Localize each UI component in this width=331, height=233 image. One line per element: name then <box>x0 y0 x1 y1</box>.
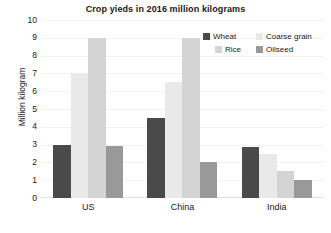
x-axis-tick-label: China <box>135 202 229 213</box>
legend-row: RiceOilseed <box>203 44 329 55</box>
legend-swatch-icon <box>215 46 222 53</box>
legend-label: Wheat <box>213 32 236 41</box>
y-axis-tick-label: 0 <box>23 194 37 203</box>
legend-entry[interactable]: Wheat <box>203 31 256 42</box>
bar <box>242 147 260 198</box>
legend-label: Coarse grain <box>266 32 312 41</box>
bar <box>200 162 218 198</box>
legend-entry[interactable]: Rice <box>203 44 256 55</box>
x-axis-tick-label: US <box>41 202 135 213</box>
y-axis-tick-label: 4 <box>23 122 37 131</box>
bar <box>165 82 183 198</box>
bar <box>88 38 106 198</box>
chart-title: Crop yieds in 2016 million kilograms <box>0 3 331 15</box>
legend-entry[interactable]: Coarse grain <box>256 31 328 42</box>
legend-label: Rice <box>225 45 241 54</box>
bar-group: US <box>41 20 135 198</box>
bar <box>53 145 71 198</box>
y-axis-tick-label: 8 <box>23 51 37 60</box>
x-axis-tick-label: India <box>230 202 324 213</box>
bar <box>277 171 295 198</box>
y-axis-tick-label: 7 <box>23 69 37 78</box>
y-axis-tick-label: 2 <box>23 158 37 167</box>
y-axis-tick-label: 10 <box>23 16 37 25</box>
legend-swatch-icon <box>203 33 210 40</box>
legend-row: WheatCoarse grain <box>203 31 329 42</box>
bar <box>71 73 89 198</box>
y-axis-tick-label: 6 <box>23 87 37 96</box>
bar <box>259 154 277 199</box>
bar <box>106 146 124 198</box>
legend-swatch-icon <box>256 33 263 40</box>
y-axis-tick-label: 1 <box>23 176 37 185</box>
y-axis-tick-label: 3 <box>23 140 37 149</box>
legend-swatch-icon <box>256 46 263 53</box>
bar <box>182 38 200 198</box>
legend-label: Oilseed <box>266 45 293 54</box>
bar-chart: Crop yieds in 2016 million kilograms Mil… <box>0 0 331 233</box>
bar <box>294 180 312 198</box>
y-axis-tick-label: 9 <box>23 33 37 42</box>
y-axis-tick-label: 5 <box>23 105 37 114</box>
bar <box>147 118 165 198</box>
chart-legend: WheatCoarse grainRiceOilseed <box>203 31 329 57</box>
legend-entry[interactable]: Oilseed <box>256 44 328 55</box>
